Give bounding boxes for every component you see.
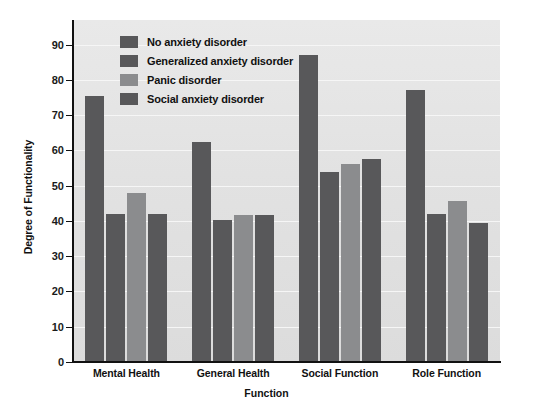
- y-axis-tick: [66, 45, 73, 46]
- legend-label: Social anxiety disorder: [147, 93, 264, 105]
- y-axis-tick: [66, 186, 73, 187]
- bar: [234, 215, 253, 362]
- y-axis-tick-label: 0: [2, 356, 64, 368]
- bar: [85, 96, 104, 362]
- bar: [406, 90, 425, 362]
- bar: [148, 214, 167, 362]
- y-axis-tick-label: 80: [2, 74, 64, 86]
- y-axis-title: Degree of Functionality: [22, 107, 34, 287]
- legend-swatch: [120, 55, 138, 67]
- x-axis-tick-label: Role Function: [393, 367, 500, 379]
- y-axis-tick-label: 90: [2, 39, 64, 51]
- bar: [448, 201, 467, 362]
- y-axis-line: [72, 20, 74, 363]
- legend-item: Panic disorder: [120, 74, 293, 86]
- legend-item: Social anxiety disorder: [120, 93, 293, 105]
- x-axis-title: Function: [0, 387, 533, 399]
- legend-swatch: [120, 74, 138, 86]
- bar: [427, 214, 446, 362]
- y-axis-tick: [66, 256, 73, 257]
- plot-area: No anxiety disorderGeneralized anxiety d…: [73, 20, 500, 362]
- x-axis-tick-label: Social Function: [287, 367, 394, 379]
- bar: [106, 214, 125, 362]
- bar-group: [406, 20, 488, 362]
- bar-chart-figure: No anxiety disorderGeneralized anxiety d…: [0, 0, 533, 410]
- y-axis-tick: [66, 221, 73, 222]
- legend-item: No anxiety disorder: [120, 36, 293, 48]
- bar: [255, 215, 274, 362]
- bar: [341, 164, 360, 362]
- y-axis-tick: [66, 115, 73, 116]
- legend-label: Panic disorder: [147, 74, 221, 86]
- y-axis-tick: [66, 150, 73, 151]
- y-axis-tick: [66, 80, 73, 81]
- x-axis-line: [72, 361, 501, 363]
- y-axis-tick: [66, 327, 73, 328]
- x-axis-tick-label: General Health: [180, 367, 287, 379]
- bar: [469, 223, 488, 362]
- bar: [320, 172, 339, 362]
- bar: [213, 220, 232, 362]
- bar: [127, 193, 146, 362]
- chart-legend: No anxiety disorderGeneralized anxiety d…: [120, 36, 293, 105]
- y-axis-tick-label: 10: [2, 321, 64, 333]
- bar: [362, 159, 381, 362]
- legend-item: Generalized anxiety disorder: [120, 55, 293, 67]
- bar-group: [299, 20, 381, 362]
- y-axis-tick: [66, 362, 73, 363]
- legend-label: Generalized anxiety disorder: [147, 55, 293, 67]
- y-axis-tick: [66, 291, 73, 292]
- legend-swatch: [120, 93, 138, 105]
- x-axis-tick-label: Mental Health: [73, 367, 180, 379]
- legend-label: No anxiety disorder: [147, 36, 247, 48]
- bar: [299, 55, 318, 362]
- y-axis-tick-label: 20: [2, 285, 64, 297]
- bar: [192, 142, 211, 362]
- legend-swatch: [120, 36, 138, 48]
